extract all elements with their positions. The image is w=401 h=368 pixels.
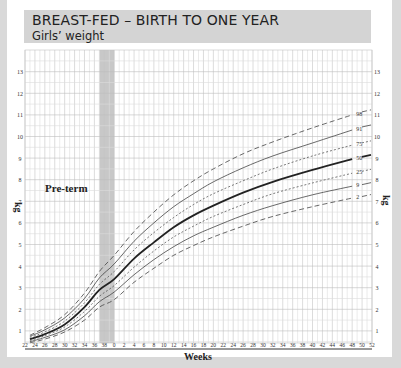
x-tick-label: 6	[143, 342, 146, 348]
y-tick-label: 4	[376, 264, 379, 270]
x-tick-label: 14	[181, 342, 187, 348]
x-tick-label: 32	[270, 342, 276, 348]
x-tick-label: 36	[92, 342, 98, 348]
y-tick-label: 5	[376, 242, 379, 248]
y-tick-label: 10	[374, 134, 380, 140]
x-tick-label: 38	[102, 342, 108, 348]
percentile-curve-98	[30, 115, 352, 335]
y-tick-label: 9	[19, 156, 22, 162]
x-tick-label: 28	[250, 342, 256, 348]
x-tick-label: 32	[72, 342, 78, 348]
percentile-label-2: 2	[356, 194, 359, 200]
y-tick-label: 3	[376, 285, 379, 291]
x-tick-label: 24	[230, 342, 236, 348]
y-tick-label: 13	[374, 69, 380, 75]
grid-lines	[25, 50, 372, 343]
x-tick-label: 34	[82, 342, 88, 348]
y-tick-label: 1	[376, 328, 379, 334]
x-tick-label: 28	[52, 342, 58, 348]
y-tick-label: 2	[19, 307, 22, 313]
x-tick-label: 16	[191, 342, 197, 348]
percentile-label-98: 98	[356, 111, 362, 117]
y-tick-label: 8	[376, 177, 379, 183]
percentile-curves	[30, 115, 352, 343]
y-axis-label-left: kg	[13, 202, 24, 213]
y-tick-label: 1	[19, 328, 22, 334]
y-tick-label: 13	[17, 69, 23, 75]
x-tick-label: 34	[280, 342, 286, 348]
x-tick-label: 12	[171, 342, 177, 348]
preterm-annotation: Pre-term	[45, 182, 88, 194]
x-tick-label: 18	[201, 342, 207, 348]
y-tick-label: 11	[374, 112, 380, 118]
percentile-label-9: 9	[356, 182, 359, 188]
x-tick-label: 46	[340, 342, 346, 348]
percentile-label-91: 91	[356, 126, 362, 132]
x-tick-label: 20	[211, 342, 217, 348]
x-tick-label: 4	[133, 342, 136, 348]
x-tick-label: 30	[260, 342, 266, 348]
y-tick-label: 7	[376, 199, 379, 205]
percentile-labels: 989175502592	[356, 110, 371, 200]
y-tick-label: 10	[17, 134, 23, 140]
percentile-label-50: 50	[356, 155, 362, 161]
x-tick-label: 24	[32, 342, 38, 348]
percentile-curve-25	[30, 173, 352, 340]
x-tick-label: 22	[221, 342, 227, 348]
y-tick-label: 6	[19, 220, 22, 226]
x-tick-label: 50	[359, 342, 365, 348]
y-tick-label: 6	[376, 220, 379, 226]
x-tick-label: 10	[161, 342, 167, 348]
x-tick-label: 22	[22, 342, 28, 348]
x-axis-label: Weeks	[184, 351, 212, 362]
term-birth-band	[99, 50, 114, 343]
x-tick-label: 8	[153, 342, 156, 348]
percentile-label-75: 75	[356, 141, 362, 147]
y-axis-label-right: kg	[381, 195, 392, 206]
y-tick-label: 3	[19, 285, 22, 291]
y-tick-label: 9	[376, 156, 379, 162]
x-tick-label: 42	[320, 342, 326, 348]
y-tick-label: 11	[17, 112, 23, 118]
y-tick-label: 12	[374, 91, 380, 97]
x-tick-label: 26	[42, 342, 48, 348]
percentile-curve-91	[30, 130, 352, 336]
percentile-curve-75	[30, 145, 352, 337]
x-tick-label: 48	[349, 342, 355, 348]
y-tick-label: 4	[19, 264, 22, 270]
percentile-curve-9	[30, 186, 352, 342]
x-tick-label: 52	[369, 342, 375, 348]
growth-chart: 12345678910111213 12345678910111213 2224…	[0, 0, 401, 368]
y-tick-label: 12	[17, 91, 23, 97]
x-tick-label: 2	[123, 342, 126, 348]
y-tick-label: 2	[376, 307, 379, 313]
x-tick-label: 40	[310, 342, 316, 348]
y-tick-label: 8	[19, 177, 22, 183]
x-tick-label: 30	[62, 342, 68, 348]
y-tick-label: 5	[19, 242, 22, 248]
x-tick-label: 0	[113, 342, 116, 348]
x-tick-label: 38	[300, 342, 306, 348]
x-tick-label: 44	[330, 342, 336, 348]
x-tick-label: 36	[290, 342, 296, 348]
percentile-label-25: 25	[356, 169, 362, 175]
y-axis-right-ticks: 12345678910111213	[374, 69, 380, 334]
x-tick-label: 26	[240, 342, 246, 348]
